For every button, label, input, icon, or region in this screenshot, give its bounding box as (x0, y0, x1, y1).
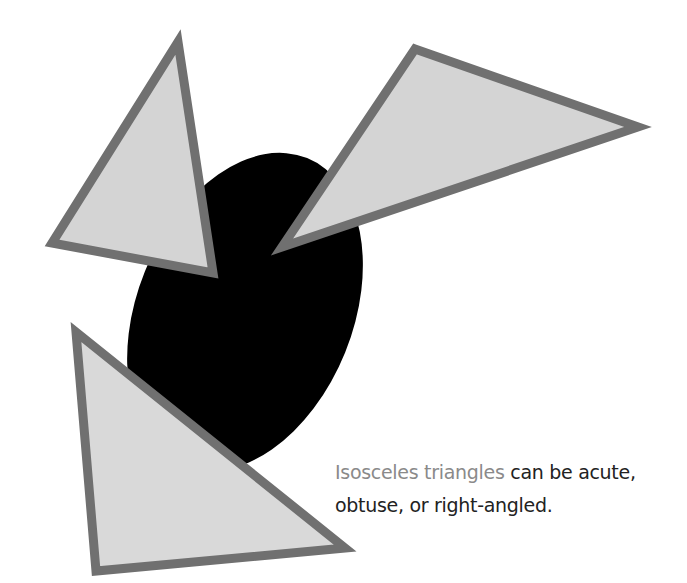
acute-triangle (52, 42, 213, 273)
caption-highlight: Isosceles triangles (335, 461, 505, 483)
caption: Isosceles triangles can be acute, obtuse… (335, 456, 685, 522)
obtuse-triangle (282, 49, 638, 247)
